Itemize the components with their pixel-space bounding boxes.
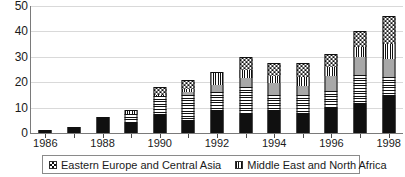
x-axis-tick (74, 134, 75, 138)
x-axis: 1986198819901992199419961998 (31, 134, 403, 148)
bar-segment-hstripe (210, 92, 223, 110)
bar-segment-hstripe (325, 91, 338, 108)
legend-label: Middle East and North Africa (247, 159, 386, 171)
bar-segment-solid-black (354, 103, 367, 133)
y-axis-tick-label: 40 (4, 25, 28, 37)
bar-segment-solid-black (182, 120, 195, 133)
x-axis-tick-label: 1996 (311, 138, 351, 149)
legend-item[interactable]: Middle East and North Africa (235, 159, 386, 171)
bars-layer (31, 6, 403, 133)
bar-segment-solid-gray (325, 76, 338, 91)
x-axis-tick-label: 1990 (140, 138, 180, 149)
bar-group[interactable] (117, 6, 146, 133)
stacked-bar[interactable] (210, 72, 223, 133)
bar-segment-checker (296, 63, 309, 77)
bar-segment-checker (354, 31, 367, 46)
bar-group[interactable] (260, 6, 289, 133)
bar-group[interactable] (317, 6, 346, 133)
bar-segment-checker (325, 54, 338, 67)
x-axis-tick (188, 134, 189, 138)
bar-group[interactable] (88, 6, 117, 133)
legend-item[interactable]: Eastern Europe and Central Asia (49, 159, 221, 171)
bar-segment-vstripe (296, 77, 309, 86)
bar-segment-checker (268, 63, 281, 76)
x-axis-tick-label: 1998 (369, 138, 405, 149)
y-axis-tick-label: 10 (4, 102, 28, 114)
bar-segment-solid-black (67, 128, 80, 133)
bar-segment-hstripe (153, 96, 166, 115)
bar-segment-checker (382, 16, 395, 44)
stacked-bar[interactable] (296, 63, 309, 133)
bar-segment-checker (182, 80, 195, 89)
bar-segment-hstripe (354, 75, 367, 103)
stacked-bar[interactable] (354, 31, 367, 133)
legend-label: Eastern Europe and Central Asia (61, 159, 221, 171)
bar-group[interactable] (289, 6, 318, 133)
bar-segment-solid-gray (354, 57, 367, 75)
x-axis-tick (303, 134, 304, 138)
bar-group[interactable] (174, 6, 203, 133)
bar-group[interactable] (31, 6, 60, 133)
stacked-bar[interactable] (67, 127, 80, 133)
bar-group[interactable] (231, 6, 260, 133)
bar-segment-solid-gray (210, 85, 223, 93)
stacked-bar[interactable] (382, 16, 395, 133)
stacked-bar[interactable] (125, 110, 138, 133)
stacked-bar[interactable] (325, 54, 338, 133)
bar-segment-solid-black (210, 110, 223, 133)
stacked-bar-chart: 01020304050 1986198819901992199419961998… (0, 0, 405, 177)
bar-segment-hstripe (268, 95, 281, 110)
bar-segment-hstripe (382, 77, 395, 95)
x-axis-tick-label: 1986 (25, 138, 65, 149)
bar-segment-solid-black (296, 113, 309, 133)
bar-segment-hstripe (296, 95, 309, 113)
stacked-bar[interactable] (153, 87, 166, 133)
y-axis-tick-label: 50 (4, 0, 28, 12)
x-axis-tick (360, 134, 361, 138)
bar-segment-vstripe (354, 47, 367, 57)
bar-segment-vstripe (239, 70, 252, 79)
legend-swatch-checker-icon (49, 161, 57, 169)
bar-segment-hstripe (125, 114, 138, 123)
bar-segment-checker (153, 87, 166, 95)
plot-area: 01020304050 (0, 0, 405, 148)
bar-segment-checker (239, 57, 252, 70)
bar-group[interactable] (60, 6, 89, 133)
bar-segment-solid-black (39, 130, 52, 133)
legend: Eastern Europe and Central AsiaMiddle Ea… (42, 155, 360, 174)
stacked-bar[interactable] (96, 117, 109, 134)
bar-group[interactable] (346, 6, 375, 133)
y-axis-tick-label: 20 (4, 76, 28, 88)
bar-segment-vstripe (268, 76, 281, 84)
x-axis-tick-label: 1994 (254, 138, 294, 149)
bar-segment-hstripe (239, 87, 252, 112)
bar-segment-solid-gray (296, 86, 309, 95)
bar-segment-vstripe (325, 67, 338, 76)
stacked-bar[interactable] (39, 130, 52, 133)
bar-group[interactable] (203, 6, 232, 133)
x-axis-tick (246, 134, 247, 138)
bar-segment-solid-black (125, 123, 138, 133)
bar-segment-vstripe (210, 72, 223, 85)
bar-segment-solid-black (153, 115, 166, 133)
bar-segment-solid-gray (239, 78, 252, 87)
y-axis-tick-label: 30 (4, 51, 28, 63)
bar-segment-solid-black (239, 113, 252, 133)
x-axis-tick (131, 134, 132, 138)
x-axis-tick-label: 1988 (83, 138, 123, 149)
bar-segment-solid-gray (382, 59, 395, 77)
bar-segment-solid-black (96, 118, 109, 133)
x-axis-tick-label: 1992 (197, 138, 237, 149)
legend-swatch-vstripe-icon (235, 161, 243, 169)
bar-segment-hstripe (182, 95, 195, 120)
bar-segment-solid-black (325, 108, 338, 133)
stacked-bar[interactable] (182, 80, 195, 133)
y-axis-tick-labels: 01020304050 (0, 0, 28, 148)
bar-segment-solid-black (382, 95, 395, 133)
bar-group[interactable] (145, 6, 174, 133)
bar-segment-solid-black (268, 110, 281, 133)
bar-group[interactable] (374, 6, 403, 133)
stacked-bar[interactable] (239, 57, 252, 133)
bar-segment-solid-gray (268, 83, 281, 94)
stacked-bar[interactable] (268, 63, 281, 133)
